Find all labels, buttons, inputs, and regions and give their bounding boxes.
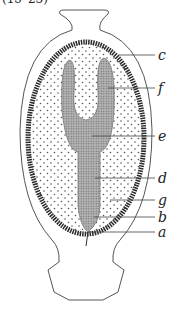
label-f: f [158,81,163,95]
label-g: g [158,193,167,207]
label-a: a [158,225,166,239]
label-e: e [158,129,166,143]
ovule-diagram [0,0,172,314]
label-d: d [158,171,167,185]
label-c: c [158,48,166,62]
label-b: b [158,210,167,224]
